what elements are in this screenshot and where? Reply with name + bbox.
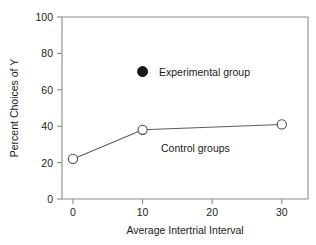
- chart-canvas: 100 80 60 40 20 0 0 10 20 30 Average Int…: [0, 0, 316, 245]
- y-axis-title: Percent Choices of Y: [8, 59, 20, 157]
- y-axis-tick-labels: 100 80 60 40 20 0: [35, 11, 53, 205]
- y-tick-label-80: 80: [41, 47, 53, 59]
- x-axis-title: Average Intertrial Interval: [126, 224, 243, 236]
- x-tick-label-20: 20: [206, 206, 218, 218]
- series-experimental-group: [138, 67, 148, 77]
- control-point-0: [68, 154, 77, 163]
- x-tick-label-0: 0: [70, 206, 76, 218]
- control-point-30: [277, 120, 286, 129]
- control-groups-label: Control groups: [161, 142, 230, 154]
- x-tick-label-10: 10: [137, 206, 149, 218]
- chart-figure: 100 80 60 40 20 0 0 10 20 30 Average Int…: [0, 0, 316, 245]
- plot-frame: [62, 17, 308, 199]
- y-tick-label-100: 100: [35, 11, 53, 23]
- x-axis-tick-labels: 0 10 20 30: [70, 206, 288, 218]
- experimental-group-label: Experimental group: [159, 66, 250, 78]
- x-tick-label-30: 30: [276, 206, 288, 218]
- experimental-point-10: [138, 67, 148, 77]
- y-axis-ticks: [57, 17, 62, 199]
- y-tick-label-40: 40: [41, 120, 53, 132]
- y-tick-label-0: 0: [47, 193, 53, 205]
- x-axis-ticks: [73, 199, 282, 204]
- axes-border: [62, 17, 308, 199]
- y-tick-label-60: 60: [41, 84, 53, 96]
- control-point-10: [138, 125, 147, 134]
- y-tick-label-20: 20: [41, 157, 53, 169]
